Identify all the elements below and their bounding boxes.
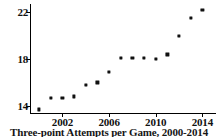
y-axis-tick-label: 14 <box>17 100 28 111</box>
data-point <box>61 96 64 99</box>
data-point <box>119 56 122 59</box>
data-point <box>142 56 145 59</box>
data-point <box>131 56 134 59</box>
data-point <box>84 83 87 86</box>
data-point <box>166 53 169 56</box>
data-point <box>49 96 52 99</box>
data-point <box>154 57 157 60</box>
data-point <box>108 70 111 73</box>
y-axis-tick-label: 18 <box>17 54 28 65</box>
data-point <box>177 34 180 37</box>
data-point <box>38 108 41 111</box>
data-point <box>189 16 192 19</box>
scatter-plot-area <box>31 4 214 114</box>
y-axis-tick-label: 22 <box>17 7 28 18</box>
chart-figure: 141822 2002200620102014 Three-point Atte… <box>0 0 218 137</box>
figure-caption: Three-point Attempts per Game, 2000-2014 <box>0 126 218 137</box>
data-point <box>73 95 76 98</box>
data-point <box>201 8 204 11</box>
data-point <box>96 81 99 84</box>
